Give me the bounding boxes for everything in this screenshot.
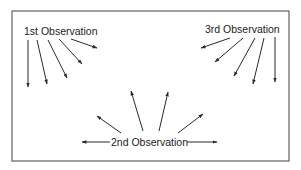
first-observation-arrow-2 bbox=[37, 40, 47, 84]
first-observation-group: 1st Observation bbox=[24, 25, 98, 87]
second-observation-arrow-3 bbox=[97, 116, 121, 133]
second-observation-arrow-4 bbox=[131, 91, 143, 131]
third-observation-arrow-4 bbox=[253, 38, 264, 84]
third-observation-arrow-3 bbox=[234, 38, 255, 76]
first-observation-arrow-5 bbox=[71, 39, 97, 48]
first-observation-arrow-4 bbox=[59, 39, 82, 64]
first-observation-label: 1st Observation bbox=[24, 25, 98, 37]
first-observation-arrow-3 bbox=[48, 40, 67, 78]
third-observation-label: 3rd Observation bbox=[205, 23, 280, 35]
second-observation-group: 2nd Observation bbox=[82, 91, 217, 148]
third-observation-arrow-1 bbox=[201, 38, 230, 48]
second-observation-label: 2nd Observation bbox=[111, 136, 188, 148]
second-observation-arrow-6 bbox=[178, 114, 203, 133]
second-observation-arrow-5 bbox=[159, 92, 168, 131]
third-observation-group: 3rd Observation bbox=[201, 23, 280, 84]
observation-diagram: 1st Observation 3rd Observation 2nd Obse… bbox=[0, 0, 301, 170]
